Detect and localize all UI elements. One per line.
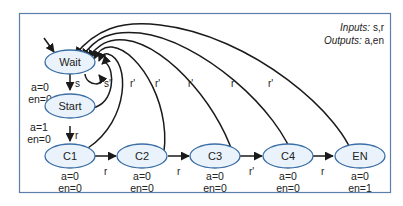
svg-text:C3: C3 (208, 150, 222, 162)
svg-text:en=0: en=0 (58, 182, 82, 194)
svg-text:a=0: a=0 (61, 170, 79, 182)
svg-text:en=0: en=0 (130, 182, 154, 194)
label-wait-to-start: s (75, 78, 80, 89)
svg-text:en=1: en=1 (348, 182, 372, 194)
label-c2-to-wait: r' (188, 78, 193, 89)
svg-text:Wait: Wait (59, 56, 81, 68)
fsm-diagram: Inputs: s,r Outputs: a,en s s' r r' r r'… (0, 0, 403, 206)
svg-text:en=0: en=0 (276, 182, 300, 194)
svg-text:Start: Start (58, 100, 81, 112)
label-wait-self-loop: s' (104, 78, 111, 89)
svg-text:en=0: en=0 (203, 182, 227, 194)
svg-text:a=1: a=1 (30, 121, 48, 133)
svg-text:EN: EN (352, 150, 367, 162)
svg-text:a=0: a=0 (31, 81, 49, 93)
svg-text:a=0: a=0 (206, 170, 224, 182)
label-c4-to-wait: r' (268, 78, 273, 89)
svg-text:a=0: a=0 (279, 170, 297, 182)
legend-outputs: Outputs: a,en (324, 35, 384, 46)
svg-text:C4: C4 (281, 150, 295, 162)
svg-text:C2: C2 (135, 150, 149, 162)
label-start-to-wait: r' (130, 78, 135, 89)
svg-text:a=0: a=0 (351, 170, 369, 182)
svg-text:C1: C1 (63, 150, 77, 162)
svg-text:en=0: en=0 (27, 133, 51, 145)
label-c3-to-c4: r' (249, 166, 254, 177)
label-c1-to-wait: r' (155, 78, 160, 89)
svg-text:a=0: a=0 (133, 170, 151, 182)
legend-inputs: Inputs: s,r (340, 22, 385, 33)
